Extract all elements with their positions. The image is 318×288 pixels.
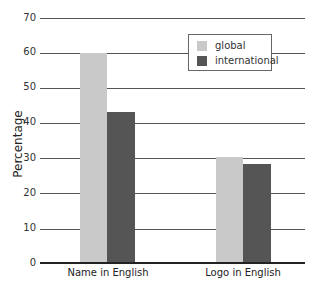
y-tick-0: 0: [16, 257, 36, 268]
y-tick-10: 10: [16, 222, 36, 233]
gridline-70: [40, 18, 305, 19]
y-tick-50: 50: [16, 81, 36, 92]
bar-logo-global: [216, 157, 243, 263]
x-label-name: Name in English: [48, 267, 168, 278]
y-tick-30: 30: [16, 152, 36, 163]
bar-logo-international: [243, 164, 271, 263]
y-tick-20: 20: [16, 187, 36, 198]
x-axis: [40, 262, 305, 264]
legend-item-global: global: [197, 40, 246, 51]
legend: global international: [188, 34, 272, 71]
bar-name-international: [107, 112, 135, 263]
legend-label-international: international: [215, 55, 279, 66]
legend-swatch-international: [197, 56, 207, 66]
x-label-logo: Logo in English: [183, 267, 303, 278]
legend-label-global: global: [215, 40, 246, 51]
y-tick-60: 60: [16, 46, 36, 57]
legend-swatch-global: [197, 41, 207, 51]
y-tick-40: 40: [16, 116, 36, 127]
bar-name-global: [80, 53, 107, 263]
legend-item-international: international: [197, 55, 279, 66]
y-tick-70: 70: [16, 12, 36, 23]
